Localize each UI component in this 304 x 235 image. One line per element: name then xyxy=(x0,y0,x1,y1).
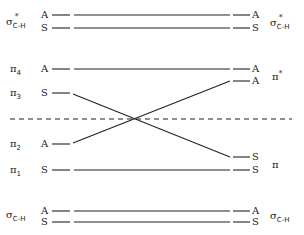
sigma-symbol: σ xyxy=(270,210,277,221)
right-sym-S: S xyxy=(252,165,259,175)
right-sym-A: A xyxy=(252,76,259,86)
left-label-sigma-star-ch: σ*C-H xyxy=(6,17,26,28)
left-sym-A: A xyxy=(41,139,48,149)
left-sym-S: S xyxy=(41,217,48,227)
correlation-lines xyxy=(0,0,304,235)
ch-subscript: C-H xyxy=(277,216,290,224)
subscript: 2 xyxy=(17,144,21,152)
left-label-pi2: π2 xyxy=(10,139,21,150)
right-label-sigma-star-ch: σ*C-H xyxy=(270,18,290,29)
pi-symbol: π xyxy=(272,71,279,82)
left-label-pi4: π4 xyxy=(10,64,21,75)
pi-symbol: π xyxy=(272,159,279,170)
sigma-symbol: σ xyxy=(6,16,13,27)
star-superscript: * xyxy=(279,13,283,23)
sigma-symbol: σ xyxy=(6,209,13,220)
sigma-symbol: σ xyxy=(270,17,277,28)
right-sym-S: S xyxy=(252,217,259,227)
ch-subscript: C-H xyxy=(13,215,26,223)
left-sym-A: A xyxy=(41,64,48,74)
right-sym-A: A xyxy=(252,206,259,216)
pi-symbol: π xyxy=(10,87,17,98)
subscript: 3 xyxy=(17,93,21,101)
left-sym-S: S xyxy=(41,23,48,33)
left-label-pi3: π3 xyxy=(10,88,21,99)
subscript: 1 xyxy=(17,170,21,178)
ch-subscript: C-H xyxy=(277,23,290,31)
subscript: 4 xyxy=(17,69,21,77)
star-superscript: * xyxy=(15,12,19,22)
pi-symbol: π xyxy=(10,63,17,74)
left-label-sigma-ch: σC-H xyxy=(6,210,26,221)
left-sym-A: A xyxy=(41,10,48,20)
right-label-sigma-ch: σC-H xyxy=(270,211,290,222)
right-sym-S: S xyxy=(252,23,259,33)
left-sym-A: A xyxy=(41,206,48,216)
ch-subscript: C-H xyxy=(13,22,26,30)
right-sym-S: S xyxy=(252,152,259,162)
left-sym-S: S xyxy=(41,165,48,175)
pi-symbol: π xyxy=(10,164,17,175)
left-sym-S: S xyxy=(41,88,48,98)
right-sym-A: A xyxy=(252,10,259,20)
right-label-pi: π xyxy=(272,160,279,170)
pi-symbol: π xyxy=(10,138,17,149)
star-superscript: * xyxy=(279,69,283,78)
left-label-pi1: π1 xyxy=(10,165,21,176)
right-label-pi-star: π* xyxy=(272,72,283,83)
right-sym-A: A xyxy=(252,64,259,74)
